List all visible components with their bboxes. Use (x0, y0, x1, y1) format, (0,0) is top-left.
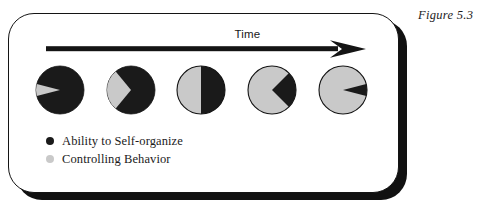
legend: Ability to Self-organize Controlling Beh… (46, 133, 183, 169)
filled-circle-icon (46, 155, 54, 163)
legend-label: Controlling Behavior (62, 152, 171, 167)
right-arrow-icon (46, 40, 366, 58)
legend-item-self-organize: Ability to Self-organize (46, 133, 183, 149)
figure-caption: Figure 5.3 (418, 8, 473, 23)
legend-item-controlling-behavior: Controlling Behavior (46, 151, 183, 167)
filled-circle-icon (46, 137, 54, 145)
time-axis-label: Time (0, 28, 495, 40)
legend-label: Ability to Self-organize (62, 134, 183, 149)
